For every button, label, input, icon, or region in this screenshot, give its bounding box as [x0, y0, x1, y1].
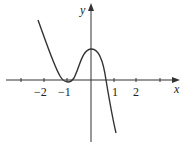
tick-label-neg2: −2	[34, 85, 47, 99]
y-axis-label: y	[79, 3, 86, 17]
x-axis-label: x	[173, 82, 180, 96]
tick-label-1: 1	[112, 85, 118, 99]
tick-label-2: 2	[133, 85, 139, 99]
y-axis-arrow-icon	[88, 3, 94, 11]
function-curve	[38, 20, 116, 133]
function-graph: −2 −1 1 2 x y	[0, 0, 184, 148]
tick-label-neg1: −1	[58, 85, 71, 99]
